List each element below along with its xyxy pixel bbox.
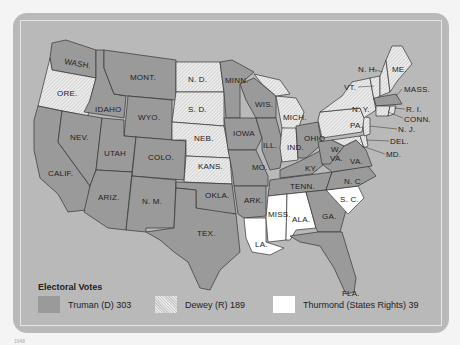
label-del: DEL. [390,137,409,146]
legend-item-thurmond: Thurmond (States Rights) 39 [273,296,419,313]
us-electoral-map-1948: WASH. ORE. CALIF. IDAHO NEV. MONT. WYO. … [0,0,460,345]
label-pa: PA. [350,121,363,130]
label-va: VA. [350,157,363,166]
label-ore: ORE. [57,89,77,98]
label-ny: N. Y. [352,105,370,114]
label-md: MD. [386,150,401,159]
state-connecticut[interactable] [376,106,390,116]
label-nd: N. D. [188,75,207,84]
label-mo: MO. [252,163,268,172]
label-conn: CONN. [404,115,431,124]
label-nj: N. J. [398,125,415,134]
label-ala: ALA. [292,215,310,224]
label-okla: OKLA. [205,191,230,200]
dewey-swatch [155,296,177,313]
legend-label-truman: Truman (D) 303 [68,300,131,310]
label-sc: S. C. [340,195,359,204]
label-kans: KANS. [198,162,223,171]
label-wva-w: W. [331,145,341,154]
label-colo: COLO. [148,153,174,162]
label-tex: TEX. [197,229,216,238]
label-vt: VT. [344,83,356,92]
label-tenn: TENN. [290,182,315,191]
label-mont: MONT. [130,73,156,82]
legend-label-dewey: Dewey (R) 189 [185,300,245,310]
label-calif: CALIF. [48,169,73,178]
label-mich: MICH. [283,113,307,122]
label-ga: GA. [322,212,336,221]
label-wis: WIS. [255,100,273,109]
thurmond-swatch [273,296,295,313]
label-wyo: WYO. [138,113,160,122]
label-minn: MINN. [225,76,249,85]
label-ohio: OHIO [304,134,325,143]
label-nev: NEV. [70,133,89,142]
label-ri: R. I. [406,105,422,114]
label-ind: IND. [287,143,304,152]
legend-title: Electoral Votes [38,282,102,292]
label-ill: ILL. [263,141,277,150]
label-miss: MISS. [268,210,291,219]
state-florida[interactable] [290,232,356,294]
label-me: ME. [392,65,407,74]
label-mass: MASS. [404,85,430,94]
label-ky: KY. [305,164,317,173]
label-sd: S. D. [188,105,207,114]
label-ariz: ARIZ. [98,193,119,202]
caption: 1948 [14,338,25,344]
label-wva-va: VA. [330,154,343,163]
label-neb: NEB. [194,134,213,143]
label-ark: ARK. [244,196,263,205]
label-utah: UTAH [104,149,126,158]
label-iowa: IOWA [233,129,255,138]
truman-swatch [38,296,60,313]
legend-item-truman: Truman (D) 303 [38,296,131,313]
label-idaho: IDAHO [95,105,121,114]
label-nm: N. M. [142,197,162,206]
label-nc: N. C. [344,177,363,186]
label-la: LA. [255,240,268,249]
legend-item-dewey: Dewey (R) 189 [155,296,245,313]
legend-label-thurmond: Thurmond (States Rights) 39 [303,300,419,310]
